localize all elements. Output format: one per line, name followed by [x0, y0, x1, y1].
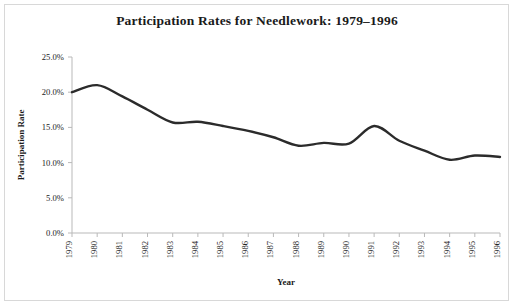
x-tick-label: 1986 [240, 240, 250, 258]
x-tick-label: 1992 [391, 241, 401, 258]
x-axis-ticks: 1979198019811982198319841985198619871988… [64, 233, 502, 258]
x-tick-label: 1995 [467, 241, 477, 258]
y-tick-label: 0.0% [46, 228, 64, 238]
y-axis-title: Participation Rate [16, 110, 26, 181]
x-tick-label: 1984 [190, 240, 200, 258]
x-tick-label: 1993 [416, 241, 426, 258]
y-axis-ticks: 0.0%5.0%10.0%15.0%20.0%25.0% [42, 52, 72, 238]
chart-figure: Participation Rates for Needlework: 1979… [0, 0, 514, 306]
y-tick-label: 20.0% [42, 87, 64, 97]
x-tick-label: 1989 [316, 241, 326, 258]
x-tick-label: 1982 [140, 241, 150, 258]
x-tick-label: 1987 [265, 240, 275, 258]
y-tick-label: 5.0% [46, 193, 64, 203]
y-tick-label: 25.0% [42, 52, 64, 62]
x-tick-label: 1996 [492, 240, 502, 258]
plot-area: 0.0%5.0%10.0%15.0%20.0%25.0% 19791980198… [0, 0, 514, 306]
x-axis-title: Year [277, 277, 295, 287]
x-tick-label: 1979 [64, 241, 74, 258]
data-series-line [72, 85, 500, 160]
x-tick-label: 1988 [291, 241, 301, 258]
x-tick-label: 1981 [114, 241, 124, 258]
x-tick-label: 1983 [165, 241, 175, 258]
x-tick-label: 1991 [366, 241, 376, 258]
x-tick-label: 1990 [341, 241, 351, 258]
x-tick-label: 1985 [215, 241, 225, 258]
x-tick-label: 1980 [89, 241, 99, 258]
y-tick-label: 15.0% [42, 122, 64, 132]
y-tick-label: 10.0% [42, 158, 64, 168]
x-tick-label: 1994 [442, 240, 452, 258]
